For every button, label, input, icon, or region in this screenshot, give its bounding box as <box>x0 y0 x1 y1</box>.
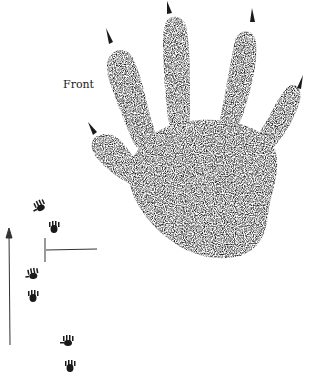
trail-print-3 <box>24 267 39 280</box>
trail-print-1 <box>30 198 47 214</box>
track-illustration <box>0 0 309 375</box>
trail-direction-arrow <box>6 228 12 345</box>
trail-print-2 <box>49 221 60 233</box>
trail-print-6 <box>65 360 76 372</box>
trail-print-4 <box>28 290 39 302</box>
trail-print-5 <box>60 335 74 346</box>
stride-measure-marker <box>45 238 97 262</box>
trail-prints <box>24 198 75 372</box>
front-foot-print <box>92 17 301 258</box>
